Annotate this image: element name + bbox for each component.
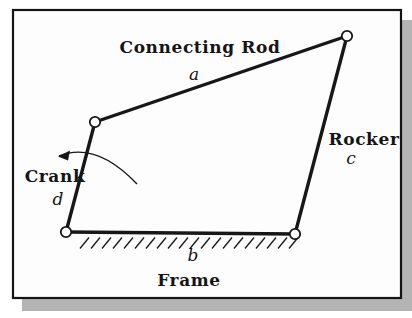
four-bar-linkage-diagram: Connecting RodaRockercCrankdbFrame	[0, 0, 412, 318]
frame-symbol: b	[188, 245, 199, 265]
link-frame	[66, 232, 295, 234]
crank-symbol: d	[53, 189, 64, 209]
connecting-rod-label: Connecting Rod	[120, 37, 281, 57]
rocker-label: Rocker	[329, 129, 400, 149]
joint-ground-left	[61, 227, 71, 237]
joint-crank-coupler	[90, 117, 100, 127]
connecting-rod-symbol: a	[189, 64, 199, 84]
rocker-symbol: c	[346, 148, 356, 168]
joint-ground-right	[290, 229, 300, 239]
joint-coupler-rocker	[342, 31, 352, 41]
crank-label: Crank	[25, 166, 86, 186]
frame-label: Frame	[157, 270, 221, 290]
figure-canvas: Connecting RodaRockercCrankdbFrame	[0, 0, 412, 318]
